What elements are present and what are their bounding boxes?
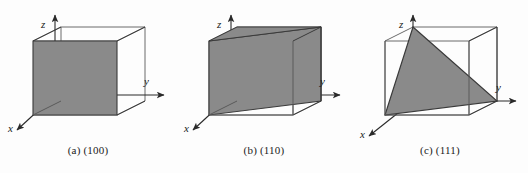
- z-axis-label: z: [398, 18, 404, 30]
- caption-100: (a) (100): [0, 144, 176, 156]
- x-axis-label: x: [359, 128, 365, 140]
- y-axis-label: y: [319, 75, 325, 87]
- panel-100: z y x (a) (100): [0, 0, 176, 173]
- caption-110: (b) (110): [176, 144, 352, 156]
- miller-plane-figure: z y x (a) (100): [0, 0, 528, 173]
- plane-100: [33, 41, 117, 115]
- plane-111: [385, 27, 497, 115]
- y-axis-label: y: [143, 75, 149, 87]
- x-axis-label: x: [183, 122, 189, 134]
- caption-111: (c) (111): [352, 144, 528, 156]
- z-axis-label: z: [40, 18, 46, 30]
- plane-110: [209, 27, 321, 115]
- z-axis-label: z: [216, 18, 222, 30]
- panel-111: z y x (c) (111): [352, 0, 528, 173]
- panel-110: z y x (b) (110): [176, 0, 352, 173]
- y-axis-label: y: [495, 81, 501, 93]
- x-axis-label: x: [7, 122, 13, 134]
